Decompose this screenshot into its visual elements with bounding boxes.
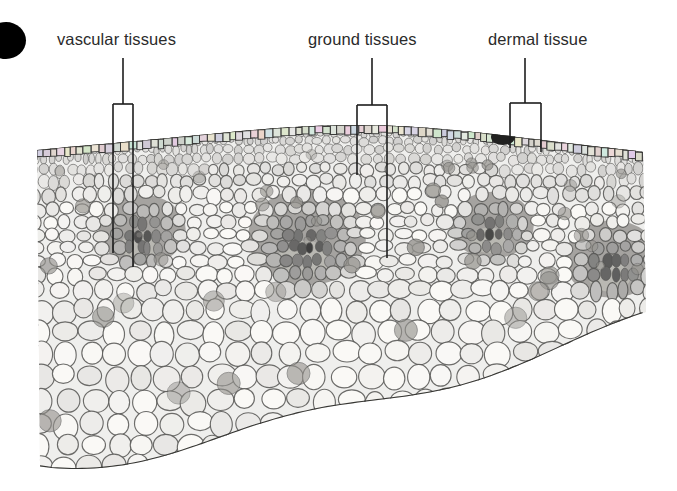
black-blob-decoration: [0, 22, 26, 59]
stem-cross-section-micrograph: [37, 112, 646, 472]
label-ground-tissues: ground tissues: [308, 31, 417, 48]
label-vascular-tissues: vascular tissues: [57, 31, 176, 48]
label-dermal-tissue: dermal tissue: [488, 31, 587, 48]
figure-canvas: vascular tissues ground tissues dermal t…: [0, 0, 677, 491]
